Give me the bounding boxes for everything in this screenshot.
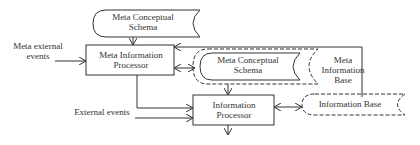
label-line: Meta external [8, 41, 68, 51]
label-line: Information [194, 100, 274, 110]
label-line: Processor [88, 60, 174, 70]
label-line: Schema [98, 22, 188, 32]
meta-information-base-label: Meta Information Base [318, 55, 368, 85]
label-line: Processor [194, 110, 274, 120]
information-base-label: Information Base [310, 99, 390, 109]
meta-external-events-label: Meta external events [8, 41, 68, 61]
label-line: External events [72, 107, 132, 117]
label-line: Base [318, 75, 368, 85]
label-line: Meta Conceptual [203, 55, 293, 65]
label-line: Information Base [310, 99, 390, 109]
meta-conceptual-schema-inner-label: Meta Conceptual Schema [203, 55, 293, 75]
meta-conceptual-schema-top-label: Meta Conceptual Schema [98, 12, 188, 32]
label-line: Meta Conceptual [98, 12, 188, 22]
information-processor-label: Information Processor [194, 100, 274, 120]
meta-information-processor-label: Meta Information Processor [88, 50, 174, 70]
external-events-label: External events [72, 107, 132, 117]
label-line: Meta Information [88, 50, 174, 60]
label-line: Meta [318, 55, 368, 65]
arrow-mip-to-ip [137, 75, 193, 108]
label-line: Information [318, 65, 368, 75]
label-line: events [8, 51, 68, 61]
label-line: Schema [203, 65, 293, 75]
